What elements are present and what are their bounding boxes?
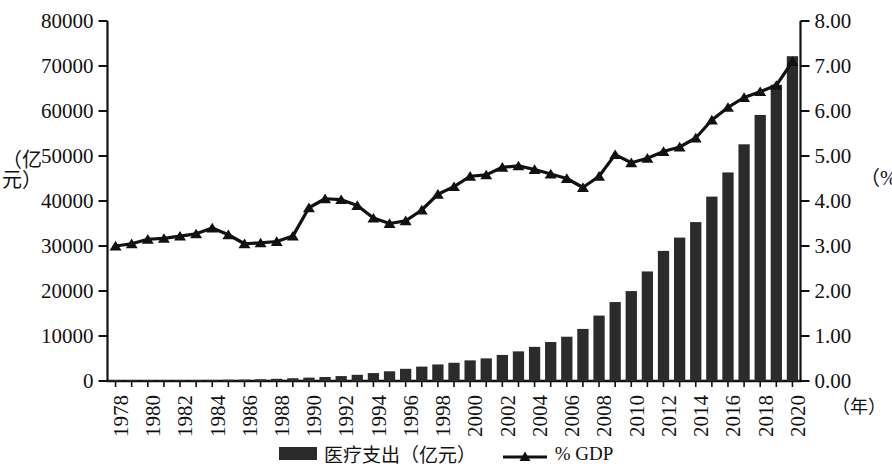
y-tick-label-right: 1.00 [815,324,852,348]
x-tick-label: 2014 [689,395,713,438]
x-tick-label: 2020 [786,395,810,437]
legend-item-expenditure: 医疗支出（亿元） [279,440,476,467]
bar [448,363,459,381]
bar [207,380,218,381]
bar [674,238,685,381]
bar [690,222,701,381]
y-axis-right-title: （%） [860,168,886,188]
bar [755,115,766,381]
y-tick-label-right: 5.00 [815,144,852,168]
x-tick-label: 2018 [754,395,778,437]
bar [513,351,524,381]
y-tick-label-left: 40000 [41,189,94,213]
bar [642,271,653,381]
y-tick-label-right: 0.00 [815,369,852,393]
line-marker [609,149,621,159]
x-tick-label: 1986 [238,395,262,437]
bar [416,367,427,381]
gdp-percent-line [116,62,793,247]
x-tick-label: 2010 [625,395,649,437]
bar [658,251,669,381]
line-triangle-swatch-icon [502,447,548,461]
bar [368,373,379,381]
y-tick-label-left: 10000 [41,324,94,348]
bar [287,378,298,381]
x-axis-unit-label: （年） [832,392,886,418]
x-tick-label: 1998 [431,395,455,437]
y-tick-label-right: 4.00 [815,189,852,213]
bar [529,347,540,381]
bar [255,379,266,381]
y-tick-label-right: 6.00 [815,99,852,123]
y-tick-label-left: 30000 [41,234,94,258]
legend-label-expenditure: 医疗支出（亿元） [324,440,476,467]
bar [400,369,411,381]
bar [771,85,782,381]
y-tick-label-left: 0 [83,369,94,393]
x-tick-label: 2004 [528,395,552,438]
bar [464,360,475,381]
x-tick-label: 2008 [592,395,616,437]
bar [319,377,330,381]
x-tick-label: 2006 [560,395,584,437]
bar [481,358,492,381]
bar [271,379,282,381]
legend-label-gdp-percent: % GDP [555,443,614,465]
bar [593,316,604,381]
bar [336,376,347,381]
y-tick-label-left: 60000 [41,99,94,123]
bar [497,355,508,381]
x-tick-label: 2000 [463,395,487,437]
x-tick-label: 1990 [302,395,326,437]
chart-canvas: 0100002000030000400005000060000700008000… [0,0,892,468]
bar [610,302,621,381]
bar [126,380,137,381]
y-tick-label-left: 50000 [41,144,94,168]
x-tick-label: 1992 [334,395,358,437]
bar [239,380,250,381]
x-tick-label: 1984 [206,395,230,438]
bar [722,172,733,381]
bar [303,378,314,381]
bar [174,380,185,381]
line-marker [287,231,299,241]
bar [110,380,121,381]
x-tick-label: 1980 [141,395,165,437]
line-triangle-glyph [502,450,548,464]
bar [191,380,202,381]
x-tick-label: 1994 [367,395,391,438]
y-tick-label-left: 20000 [41,279,94,303]
bar-series [110,56,798,381]
chart-figure: 0100002000030000400005000060000700008000… [0,0,892,468]
bar [706,197,717,381]
bar [577,329,588,381]
x-tick-label: 1996 [399,395,423,437]
bar [384,371,395,381]
bar [545,342,556,381]
line-marker [206,223,218,233]
legend-item-gdp-percent: % GDP [502,443,614,465]
bar [432,364,443,381]
x-tick-label: 2002 [496,395,520,437]
x-tick-label: 2016 [721,395,745,437]
bar [738,144,749,381]
bar-swatch-icon [279,447,317,460]
gdp-percent-markers [110,56,799,250]
y-tick-label-right: 3.00 [815,234,852,258]
chart-legend: 医疗支出（亿元） % GDP [0,440,892,467]
bar [223,380,234,381]
y-tick-label-left: 80000 [41,9,94,33]
bar [142,380,153,381]
y-tick-label-right: 2.00 [815,279,852,303]
x-tick-label: 1988 [270,395,294,437]
x-tick-label: 1978 [109,395,133,437]
x-tick-label: 2012 [657,395,681,437]
bar [561,337,572,381]
bar [352,375,363,381]
y-axis-left-title: （亿元） [2,150,28,190]
y-tick-label-left: 70000 [41,54,94,78]
y-tick-label-right: 8.00 [815,9,852,33]
x-tick-label: 1982 [173,395,197,437]
y-tick-label-right: 7.00 [815,54,852,78]
bar [787,56,798,381]
